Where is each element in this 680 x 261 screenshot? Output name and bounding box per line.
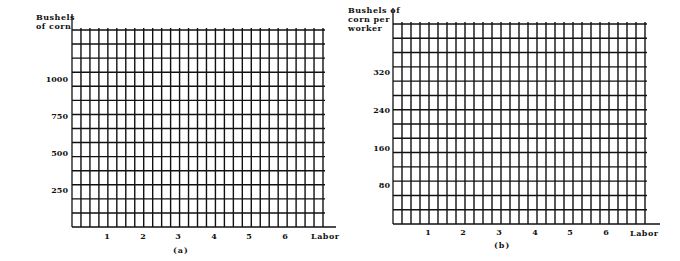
ytick-240: 240 <box>360 105 390 115</box>
chart-b-xlabel: Labor <box>630 229 658 238</box>
chart-b-caption: (b) <box>494 240 510 250</box>
xtick-4: 4 <box>528 227 542 237</box>
xtick-6: 6 <box>599 227 613 237</box>
chart-b-grid <box>0 0 680 261</box>
chart-b: Bushels of corn per worker 320 240 160 8… <box>0 0 680 261</box>
ytick-80: 80 <box>360 180 390 190</box>
xtick-2: 2 <box>456 227 470 237</box>
ytick-160: 160 <box>360 143 390 153</box>
xtick-5: 5 <box>563 227 577 237</box>
ytick-320: 320 <box>360 67 390 77</box>
xtick-1: 1 <box>421 227 435 237</box>
xtick-3: 3 <box>492 227 506 237</box>
ylabel-line: worker <box>348 24 400 33</box>
chart-b-ylabel: Bushels of corn per worker <box>348 6 400 33</box>
